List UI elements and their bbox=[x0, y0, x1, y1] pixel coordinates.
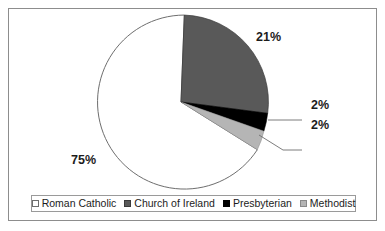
chart-legend: Roman Catholic Church of Ireland Presbyt… bbox=[31, 195, 356, 212]
legend-item-presbyterian[interactable]: Presbyterian bbox=[223, 198, 292, 209]
pie-label-methodist: 2% bbox=[311, 119, 329, 132]
legend-swatch-icon bbox=[223, 200, 230, 207]
legend-swatch-icon bbox=[300, 200, 307, 207]
pie-chart-plot-area: 21% 2% 2% 75% bbox=[9, 9, 378, 222]
pie-label-roman-catholic: 75% bbox=[71, 154, 96, 167]
legend-label: Church of Ireland bbox=[134, 198, 215, 209]
legend-item-roman-catholic[interactable]: Roman Catholic bbox=[32, 198, 117, 209]
pie-label-church-of-ireland: 21% bbox=[256, 31, 281, 44]
legend-label: Presbyterian bbox=[233, 198, 292, 209]
pie-chart-svg bbox=[9, 9, 378, 222]
chart-frame: 21% 2% 2% 75% Roman Catholic Church of I… bbox=[8, 8, 377, 221]
pie-label-presbyterian: 2% bbox=[311, 99, 329, 112]
leader-line-methodist bbox=[259, 135, 302, 150]
legend-item-methodist[interactable]: Methodist bbox=[300, 198, 356, 209]
legend-item-church-of-ireland[interactable]: Church of Ireland bbox=[124, 198, 215, 209]
legend-label: Roman Catholic bbox=[42, 198, 117, 209]
legend-label: Methodist bbox=[310, 198, 356, 209]
legend-swatch-icon bbox=[124, 200, 131, 207]
legend-swatch-icon bbox=[32, 200, 39, 207]
